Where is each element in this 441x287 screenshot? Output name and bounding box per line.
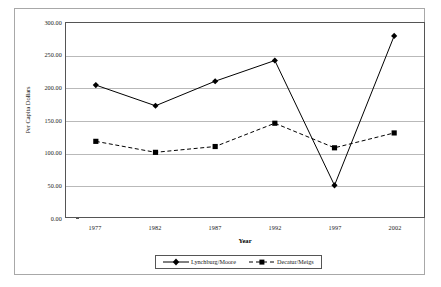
- markers-decatur-meigs: [93, 121, 397, 155]
- x-tick-label-1997: 1997: [305, 224, 365, 232]
- legend-marker-square-icon: [249, 258, 275, 266]
- legend-entry-decatur-meigs[interactable]: Decatur/Meigs: [249, 258, 314, 266]
- legend-marker-diamond-icon: [163, 258, 189, 266]
- x-tick-label-2002: 2002: [365, 224, 425, 232]
- x-tick-label-1987: 1987: [185, 224, 245, 232]
- y-axis-title: Per Capita Dollars: [24, 55, 32, 165]
- data-point: [272, 57, 278, 63]
- data-point: [212, 78, 218, 84]
- y-axis-tick-labels: 300.00 250.00 200.00 150.00 100.00 50.00…: [14, 22, 62, 218]
- data-point: [93, 82, 99, 88]
- chart-legend: Lynchburg/Moore Decatur/Meigs: [155, 255, 322, 269]
- y-tick-mark-0: [76, 218, 79, 219]
- data-point: [331, 182, 337, 188]
- chart-figure: 300.00 250.00 200.00 150.00 100.00 50.00…: [0, 0, 441, 287]
- data-point: [93, 139, 98, 144]
- y-tick-label-50: 50.00: [18, 182, 62, 189]
- data-point: [332, 145, 337, 150]
- legend-entry-lynchburg-moore[interactable]: Lynchburg/Moore: [163, 258, 236, 266]
- markers-lynchburg-moore: [93, 33, 397, 189]
- plot-area: [65, 22, 425, 218]
- legend-label-decatur-meigs: Decatur/Meigs: [277, 258, 314, 266]
- series-canvas: [66, 23, 424, 217]
- data-point: [153, 150, 158, 155]
- y-tick-label-300: 300.00: [18, 19, 62, 26]
- x-tick-label-1977: 1977: [65, 224, 125, 232]
- x-tick-label-1982: 1982: [125, 224, 185, 232]
- data-point: [391, 33, 397, 39]
- line-lynchburg-moore: [96, 36, 394, 185]
- data-point: [213, 144, 218, 149]
- x-axis-title: Year: [65, 236, 425, 245]
- data-point: [152, 103, 158, 109]
- data-point: [272, 121, 277, 126]
- legend-label-lynchburg-moore: Lynchburg/Moore: [191, 258, 236, 266]
- y-tick-label-0: 0.00: [18, 215, 62, 222]
- x-tick-label-1992: 1992: [245, 224, 305, 232]
- x-axis-tick-labels: 1977 1982 1987 1992 1997 2002: [65, 224, 425, 236]
- data-point: [392, 130, 397, 135]
